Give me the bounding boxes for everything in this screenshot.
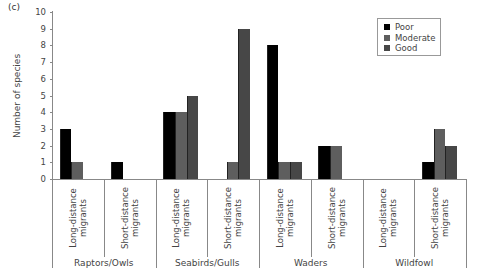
- group-separator: [52, 179, 53, 268]
- bar-good: [445, 146, 457, 179]
- subgroup-separator: [414, 179, 415, 257]
- group-separator: [466, 179, 467, 268]
- bar-poor: [318, 146, 330, 179]
- bar-poor: [163, 112, 175, 179]
- y-tick-label: 2: [30, 141, 46, 151]
- y-tick: [50, 146, 53, 147]
- legend-swatch-moderate: [384, 35, 390, 41]
- y-tick: [50, 12, 53, 13]
- x-subcategory-label-line: Long-distance: [68, 188, 78, 248]
- subgroup-separator: [207, 179, 208, 257]
- x-subcategory-label-line: migrants: [285, 188, 295, 248]
- x-group-label: Raptors/Owls: [74, 258, 133, 268]
- y-tick: [50, 112, 53, 113]
- bar-good: [238, 29, 250, 179]
- legend-swatch-poor: [384, 24, 390, 30]
- x-subcategory-label: Long-distancemigrants: [171, 188, 191, 248]
- x-subcategory-label-line: migrants: [233, 187, 243, 249]
- x-subcategory-label-line: Long-distance: [378, 188, 388, 248]
- bar-chart: (c) Number of species 012345678910 Long-…: [0, 0, 478, 275]
- y-tick-label: 10: [30, 7, 46, 17]
- y-tick-label: 9: [30, 24, 46, 34]
- x-group-label: Waders: [294, 258, 327, 268]
- x-subcategory-label-line: Short-distance: [327, 187, 337, 249]
- group-separator: [363, 179, 364, 268]
- bar-good: [187, 96, 199, 180]
- x-subcategory-label-line: migrants: [78, 188, 88, 248]
- legend-label: Good: [395, 43, 417, 53]
- y-tick-label: 5: [30, 91, 46, 101]
- subgroup-separator: [104, 179, 105, 257]
- y-tick-label: 8: [30, 40, 46, 50]
- bar-poor: [422, 162, 434, 179]
- legend-swatch-good: [384, 45, 390, 51]
- bar-good: [290, 162, 302, 179]
- x-subcategory-label-line: Short-distance: [430, 187, 440, 249]
- bar-moderate: [434, 129, 446, 179]
- x-subcategory-label: Long-distancemigrants: [275, 188, 295, 248]
- x-subcategory-label-line: Short-distance: [120, 187, 130, 249]
- x-subcategory-label-line: migrants: [181, 188, 191, 248]
- x-subcategory-label-line: migrants: [388, 188, 398, 248]
- x-subcategory-label-line: migrants: [130, 187, 140, 249]
- bar-moderate: [227, 162, 239, 179]
- x-group-label: Wildfowl: [395, 258, 433, 268]
- y-tick: [50, 96, 53, 97]
- x-subcategory-label: Short-distancemigrants: [120, 187, 140, 249]
- bar-moderate: [330, 146, 342, 179]
- x-subcategory-label-line: migrants: [440, 187, 450, 249]
- y-tick-label: 6: [30, 74, 46, 84]
- x-subcategory-label-line: Long-distance: [171, 188, 181, 248]
- x-subcategory-label-line: Short-distance: [223, 187, 233, 249]
- x-subcategory-label-line: Long-distance: [275, 188, 285, 248]
- y-axis-label: Number of species: [12, 54, 22, 138]
- x-subcategory-label: Short-distancemigrants: [223, 187, 243, 249]
- bar-poor: [60, 129, 72, 179]
- y-tick: [50, 79, 53, 80]
- x-group-label: Seabirds/Gulls: [175, 258, 239, 268]
- y-tick-label: 4: [30, 107, 46, 117]
- x-subcategory-label-line: migrants: [337, 187, 347, 249]
- y-tick-label: 1: [30, 157, 46, 167]
- group-separator: [156, 179, 157, 268]
- y-tick-label: 3: [30, 124, 46, 134]
- panel-label: (c): [8, 2, 20, 12]
- bar-moderate: [278, 162, 290, 179]
- bar-poor: [111, 162, 123, 179]
- legend-label: Moderate: [395, 33, 435, 43]
- legend-item-good: Good: [382, 43, 436, 54]
- y-tick: [50, 45, 53, 46]
- subgroup-separator: [311, 179, 312, 257]
- legend: PoorModerateGood: [377, 18, 441, 56]
- legend-item-poor: Poor: [382, 22, 436, 33]
- bar-poor: [267, 45, 279, 179]
- bar-moderate: [71, 162, 83, 179]
- y-tick: [50, 162, 53, 163]
- y-tick: [50, 29, 53, 30]
- legend-label: Poor: [395, 22, 414, 32]
- y-tick: [50, 129, 53, 130]
- legend-item-moderate: Moderate: [382, 33, 436, 44]
- x-subcategory-label: Short-distancemigrants: [327, 187, 347, 249]
- group-separator: [259, 179, 260, 268]
- y-tick: [50, 62, 53, 63]
- y-tick-label: 0: [30, 174, 46, 184]
- x-subcategory-label: Short-distancemigrants: [430, 187, 450, 249]
- bar-moderate: [175, 112, 187, 179]
- y-tick-label: 7: [30, 57, 46, 67]
- x-subcategory-label: Long-distancemigrants: [68, 188, 88, 248]
- x-subcategory-label: Long-distancemigrants: [378, 188, 398, 248]
